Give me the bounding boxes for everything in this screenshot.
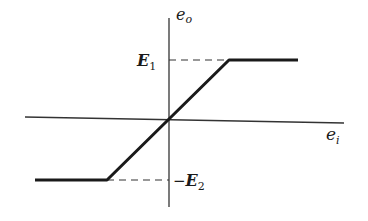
x-axis: [25, 117, 344, 123]
lower-level-label: −E2: [173, 171, 205, 193]
y-axis-label: eo: [176, 5, 192, 26]
transfer-characteristic-diagram: eo ei E1 −E2: [0, 0, 368, 221]
transfer-curve: [35, 60, 298, 180]
upper-level-label: E1: [136, 51, 156, 73]
x-axis-label: ei: [326, 124, 340, 147]
